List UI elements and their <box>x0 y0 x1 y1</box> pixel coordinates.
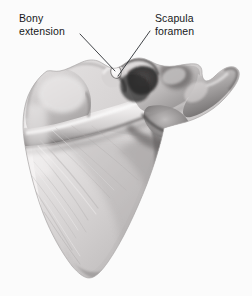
scapula-figure: Bony extension Scapula foramen <box>0 0 252 296</box>
label-scapula-foramen-line-1: Scapula <box>155 12 194 25</box>
scapula-bone-illustration <box>0 0 252 296</box>
label-scapula-foramen-line-2: foramen <box>155 25 194 38</box>
label-bony-extension-line-1: Bony <box>19 12 65 25</box>
bone-mass <box>0 0 252 296</box>
label-bony-extension: Bony extension <box>19 12 65 37</box>
label-scapula-foramen: Scapula foramen <box>155 12 194 37</box>
label-bony-extension-line-2: extension <box>19 25 65 38</box>
